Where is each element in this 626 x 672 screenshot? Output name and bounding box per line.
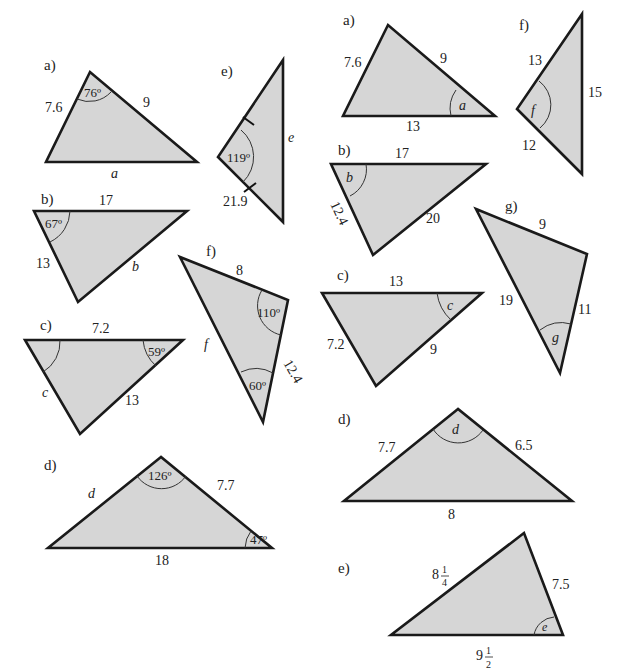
unknown-angle-label: e: [542, 620, 548, 634]
side-label: 7.2: [327, 337, 345, 352]
unknown-side-label: c: [42, 385, 49, 400]
unknown-side-label: g: [552, 330, 559, 345]
part-label: c): [337, 267, 349, 284]
side-label: 11: [578, 302, 591, 317]
angle-label: 126º: [148, 468, 172, 483]
left-triangle-c: c) 7.2 59º c 13: [25, 317, 183, 434]
side-label: 13: [36, 256, 50, 271]
part-label: b): [338, 142, 351, 159]
side-whole: 8: [432, 567, 439, 582]
unknown-side-label: f: [204, 337, 210, 352]
side-numerator: 1: [486, 645, 491, 656]
side-label: 7.6: [45, 100, 63, 115]
angle-label: 119º: [227, 150, 250, 165]
triangle-worksheet: a) 76º 7.6 9 a b) 17 67º 13 b c) 7.2 59º…: [0, 0, 626, 672]
unknown-side-label: c: [447, 298, 454, 313]
left-triangle-e: e) e 119º 21.9: [218, 60, 294, 222]
side-label: 7.7: [217, 478, 235, 493]
right-triangle-e: e) 8 1 4 7.5 e 9 1 2: [338, 533, 570, 670]
side-label: 15: [588, 85, 602, 100]
unknown-side-label: a: [111, 166, 118, 181]
side-label: 18: [155, 553, 169, 568]
part-label: f): [206, 243, 216, 260]
side-whole: 9: [476, 648, 483, 663]
side-label: 13: [528, 53, 542, 68]
unknown-side-label: e: [288, 130, 294, 145]
right-triangle-a: a) 7.6 9 a 13: [343, 12, 495, 134]
side-label: 8: [236, 263, 243, 278]
unknown-side-label: b: [346, 170, 353, 185]
side-label: 7.6: [344, 55, 362, 70]
side-label: 17: [395, 146, 409, 161]
left-triangle-f: f) 8 110º f 12.4 60º: [180, 243, 306, 422]
side-label: 6.5: [515, 438, 533, 453]
unknown-side-label: d: [452, 422, 460, 437]
part-label: d): [338, 411, 351, 428]
side-label: 7.5: [552, 577, 570, 592]
right-triangle-f: f) 13 15 f 12: [517, 14, 602, 174]
right-triangle-d: d) d 7.7 6.5 8: [338, 409, 572, 522]
left-triangle-d: d) 126º d 7.7 47º 18: [44, 457, 272, 568]
fraction-side-label: 9 1 2: [476, 645, 493, 670]
angle-label: 67º: [45, 216, 62, 231]
side-label: 12: [522, 138, 536, 153]
unknown-side-label: b: [132, 259, 139, 274]
side-label: 13: [389, 274, 403, 289]
side-label: 9: [440, 51, 447, 66]
right-triangle-g: g) 9 19 11 g: [476, 198, 591, 373]
side-label: 8: [448, 507, 455, 522]
fraction-side-label: 8 1 4: [432, 564, 449, 588]
angle-label: 76º: [84, 85, 101, 100]
part-label: d): [44, 457, 57, 474]
side-label: 9: [539, 217, 546, 232]
side-numerator: 1: [442, 564, 447, 575]
part-label: a): [343, 12, 355, 29]
side-label: 7.2: [92, 321, 110, 336]
unknown-side-label: d: [88, 486, 96, 501]
side-label: 7.7: [378, 440, 396, 455]
part-label: f): [519, 17, 529, 34]
side-label: 9: [143, 95, 150, 110]
side-label: 20: [426, 211, 440, 226]
side-denominator: 4: [442, 577, 447, 588]
side-denominator: 2: [486, 659, 491, 670]
left-triangle-a: a) 76º 7.6 9 a: [44, 57, 197, 181]
right-triangle-b: b) 17 b 12.4 20: [327, 142, 486, 255]
side-label: 19: [499, 293, 513, 308]
part-label: c): [40, 317, 52, 334]
side-label: 17: [99, 193, 113, 208]
part-label: a): [44, 57, 56, 74]
part-label: e): [338, 560, 350, 577]
part-label: g): [505, 198, 518, 215]
angle-label: 110º: [257, 305, 280, 320]
angle-label: 59º: [148, 344, 165, 359]
side-label: 9: [430, 342, 437, 357]
side-label: 21.9: [223, 194, 248, 209]
angle-label: 60º: [249, 378, 266, 393]
left-triangle-b: b) 17 67º 13 b: [34, 191, 187, 302]
side-label: 12.4: [327, 199, 351, 228]
right-triangle-c: c) 13 c 7.2 9: [322, 267, 482, 386]
side-label: 13: [406, 119, 420, 134]
part-label: e): [221, 63, 233, 80]
angle-label: 47º: [250, 532, 267, 547]
side-label: 13: [125, 393, 139, 408]
side-label: 12.4: [280, 357, 305, 386]
part-label: b): [41, 191, 54, 208]
unknown-side-label: a: [459, 98, 466, 113]
